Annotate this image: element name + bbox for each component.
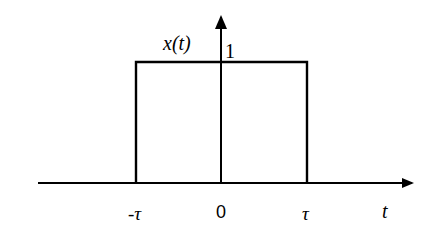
- amplitude-label: 1: [225, 40, 235, 62]
- tick-label-origin: 0: [216, 202, 226, 222]
- rectangular-pulse-diagram: x(t) 1 -τ 0 τ t: [0, 0, 444, 225]
- tick-label-neg-tau: -τ: [128, 203, 142, 224]
- function-label: x(t): [162, 32, 191, 55]
- x-axis-label: t: [382, 200, 388, 222]
- tick-label-pos-tau: τ: [302, 203, 310, 224]
